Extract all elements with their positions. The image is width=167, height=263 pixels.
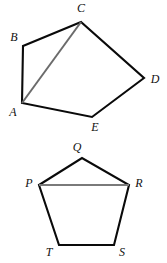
vertex-label-E: E [90,120,99,134]
vertex-label-C: C [77,1,86,15]
geometry-figure: A B C D E P Q R S T [0,0,167,263]
vertex-label-P: P [24,176,33,190]
pentagon-ABCDE-outline [22,22,144,117]
vertex-label-R: R [134,176,143,190]
vertex-label-A: A [8,105,17,119]
vertex-label-D: D [150,72,160,86]
geometry-canvas: A B C D E P Q R S T [0,0,167,263]
pentagon-PQRST-outline [39,158,129,245]
vertex-label-B: B [10,30,18,44]
vertex-label-S: S [119,245,125,259]
vertex-label-Q: Q [73,140,82,154]
pentagon-lower-group: P Q R S T [24,140,143,259]
vertex-label-T: T [46,245,54,259]
pentagon-upper-group: A B C D E [8,1,159,134]
